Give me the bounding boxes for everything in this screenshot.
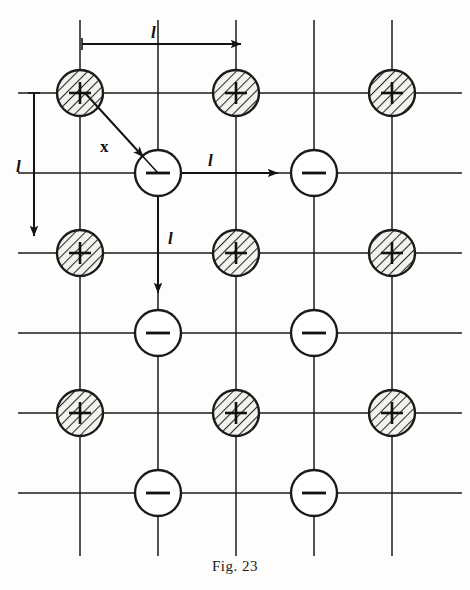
displacement-vector-label-x: x [100,138,109,155]
length-label-middle-right: l [208,152,213,169]
length-label-top: l [151,24,156,41]
figure-container: l l l l x Fig. 23 [0,0,470,590]
ion-negative [135,470,181,516]
ion-positive [369,390,415,436]
ion-positive [57,390,103,436]
ion-negative [291,310,337,356]
lattice-diagram [0,0,470,590]
ion-positive [57,230,103,276]
ion-positive [57,70,103,116]
figure-caption: Fig. 23 [0,558,470,575]
ion-negative [291,150,337,196]
ion-positive [213,70,259,116]
ion-positive [213,230,259,276]
ion-negative [135,310,181,356]
ion-positive [213,390,259,436]
length-label-middle-down: l [168,230,173,247]
ion-negative [291,470,337,516]
arrow-displacement-vector-x [85,93,143,157]
ion-positive [369,230,415,276]
length-label-left: l [16,158,21,175]
ion-positive [369,70,415,116]
